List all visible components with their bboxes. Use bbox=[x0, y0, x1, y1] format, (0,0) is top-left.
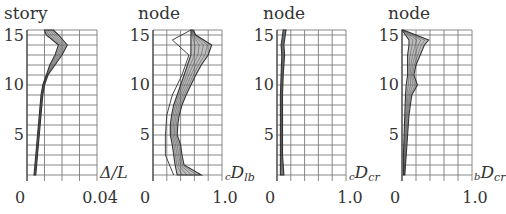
panel-cDlb: node 15 10 5 cDlb 0 1.0 bbox=[130, 3, 255, 207]
y-tick-10: 10 bbox=[254, 75, 274, 94]
y-tick-5: 5 bbox=[389, 125, 399, 144]
x-tick-max: 1.0 bbox=[462, 188, 487, 207]
grid bbox=[153, 30, 222, 181]
y-tick-5: 5 bbox=[264, 125, 274, 144]
x-axis-label: bDcr bbox=[474, 162, 506, 184]
x-axis-label: cDcr bbox=[349, 162, 380, 184]
panel-cDcr: node 15 10 5 cDcr 0 1.0 bbox=[254, 3, 381, 207]
x-tick-min: 0 bbox=[265, 188, 275, 207]
x-tick-min: 0 bbox=[390, 188, 400, 207]
y-tick-15: 15 bbox=[254, 26, 274, 45]
data-curves bbox=[402, 30, 429, 175]
x-axis-label: Δ/L bbox=[99, 163, 128, 182]
y-tick-10: 10 bbox=[379, 75, 399, 94]
panel-bDcr: node 15 10 5 bDcr 0 1.0 bbox=[379, 3, 506, 207]
data-curves bbox=[280, 30, 286, 175]
y-tick-10: 10 bbox=[130, 75, 150, 94]
x-axis-label: cDlb bbox=[225, 162, 255, 184]
x-tick-max: 0.04 bbox=[82, 188, 118, 207]
y-tick-5: 5 bbox=[14, 125, 24, 144]
y-tick-5: 5 bbox=[140, 125, 150, 144]
x-tick-max: 1.0 bbox=[212, 188, 237, 207]
x-tick-min: 0 bbox=[15, 188, 25, 207]
y-tick-15: 15 bbox=[379, 26, 399, 45]
y-tick-10: 10 bbox=[4, 75, 24, 94]
x-tick-min: 0 bbox=[140, 188, 150, 207]
panel-title: node bbox=[138, 3, 180, 23]
grid bbox=[277, 30, 346, 181]
x-tick-max: 1.0 bbox=[337, 188, 362, 207]
panel-title: node bbox=[388, 3, 430, 23]
y-tick-15: 15 bbox=[130, 26, 150, 45]
panel-title: story bbox=[4, 3, 48, 23]
panel-story-drift: story 15 10 5 Δ/L 0 0.04 bbox=[4, 3, 128, 207]
figure: story 15 10 5 Δ/L 0 0.04 node 15 10 5 cD… bbox=[0, 0, 506, 214]
y-tick-15: 15 bbox=[4, 26, 24, 45]
data-curves bbox=[165, 30, 211, 175]
panel-title: node bbox=[263, 3, 305, 23]
